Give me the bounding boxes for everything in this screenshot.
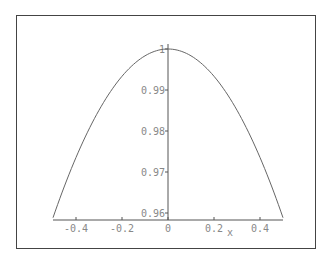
x-tick-label: 0.4 [251, 223, 269, 234]
line-chart: -0.4-0.200.20.4x10.990.980.970.96 [0, 0, 335, 264]
y-tick-label: 0.96 [141, 208, 165, 219]
x-axis-label: x [227, 227, 233, 238]
x-tick-label: 0.2 [205, 223, 223, 234]
tick-labels: -0.4-0.200.20.4x10.990.980.970.96 [64, 44, 269, 239]
y-tick-label: 0.99 [141, 85, 165, 96]
y-tick-label: 0.97 [141, 167, 165, 178]
y-tick-label: 0.98 [141, 126, 165, 137]
x-tick-label: 0 [165, 223, 171, 234]
x-tick-label: -0.4 [64, 223, 88, 234]
x-tick-label: -0.2 [110, 223, 134, 234]
